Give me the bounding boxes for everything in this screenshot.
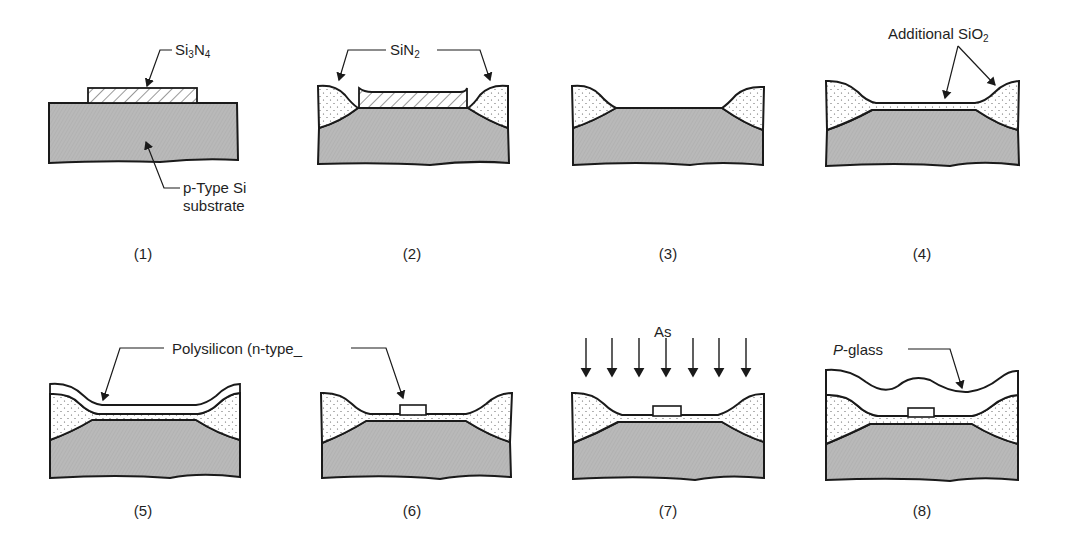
- label-arrow-left: [339, 50, 386, 80]
- nitride-layer: [359, 88, 467, 108]
- poly-gate: [653, 406, 681, 416]
- label-sin2: SiN2: [390, 42, 420, 57]
- label-connector: [351, 348, 403, 398]
- label-p-type-si: p-Type Si: [183, 180, 246, 195]
- panel-5: [50, 348, 240, 478]
- label-arrow-right: [437, 50, 490, 80]
- caption-4: (4): [913, 246, 931, 261]
- poly-gate: [908, 408, 934, 417]
- label-polysilicon: Polysilicon (n-type_: [172, 341, 302, 356]
- panel-4: [826, 46, 1019, 166]
- label-as: As: [654, 324, 672, 339]
- caption-1: (1): [134, 246, 152, 261]
- nitride-layer: [88, 88, 197, 103]
- nitride-arrow: [147, 50, 172, 86]
- substrate: [49, 103, 238, 163]
- caption-7: (7): [659, 503, 677, 518]
- label-additional-sio2: Additional SiO2: [888, 26, 989, 41]
- diagram-canvas: [0, 0, 1071, 540]
- panel-6: [321, 348, 512, 479]
- panel-8: [826, 349, 1018, 481]
- label-si3n4: Si3N4: [175, 42, 210, 57]
- label-arrow-right: [958, 46, 995, 85]
- caption-3: (3): [659, 246, 677, 261]
- label-p-glass: P-glass: [833, 342, 883, 357]
- polysilicon-arrow: [103, 348, 164, 400]
- caption-5: (5): [134, 503, 152, 518]
- process-diagram: Si3N4 p-Type Si substrate SiN2 Additiona…: [0, 0, 1071, 540]
- implant-arrows: [586, 338, 746, 376]
- panel-1: [49, 50, 238, 188]
- poly-gate: [400, 405, 426, 415]
- panel-3: [572, 86, 764, 165]
- panel-2: [318, 50, 509, 165]
- label-substrate: substrate: [183, 198, 245, 213]
- panel-7: [572, 338, 764, 480]
- caption-8: (8): [913, 503, 931, 518]
- caption-6: (6): [403, 503, 421, 518]
- caption-2: (2): [403, 246, 421, 261]
- label-arrow-left: [945, 46, 958, 98]
